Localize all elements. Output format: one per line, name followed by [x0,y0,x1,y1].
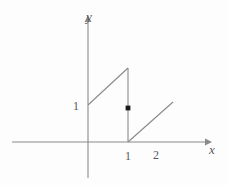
graph-figure: y x 1 1 2 [0,0,228,185]
coordinate-plot-canvas [0,0,228,185]
curve-segment-right [128,102,173,142]
curve-segment-left [88,68,128,105]
y-axis-label: y [86,10,92,23]
filled-point-marker [126,106,131,111]
x-tick-label-2: 2 [153,149,159,161]
x-axis-label: x [209,143,215,156]
y-tick-label-1: 1 [73,100,79,112]
x-tick-label-1: 1 [125,150,131,162]
